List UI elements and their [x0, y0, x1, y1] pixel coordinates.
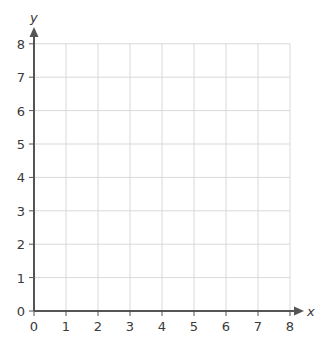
tick-labels: 012345678012345678 [17, 37, 294, 334]
x-tick-label: 2 [94, 319, 102, 334]
y-tick-label: 6 [17, 104, 25, 119]
x-tick-label: 0 [30, 319, 38, 334]
x-tick-label: 1 [62, 319, 70, 334]
grid-lines [34, 44, 290, 311]
x-tick-label: 7 [254, 319, 262, 334]
x-tick-label: 4 [158, 319, 166, 334]
y-tick-label: 3 [17, 204, 25, 219]
x-tick-label: 6 [222, 319, 230, 334]
y-tick-label: 0 [17, 304, 25, 319]
coordinate-grid: 012345678012345678 x y [0, 0, 321, 350]
y-tick-label: 1 [17, 271, 25, 286]
axes [30, 27, 305, 316]
y-axis-label: y [29, 10, 38, 25]
y-tick-label: 2 [17, 237, 25, 252]
ticks [29, 44, 290, 316]
x-tick-label: 3 [126, 319, 134, 334]
x-tick-label: 5 [190, 319, 198, 334]
y-tick-label: 7 [17, 70, 25, 85]
x-tick-label: 8 [286, 319, 294, 334]
y-tick-label: 5 [17, 137, 25, 152]
y-tick-label: 8 [17, 37, 25, 52]
x-axis-arrow-icon [294, 307, 304, 316]
x-axis-label: x [306, 304, 315, 319]
y-axis-arrow-icon [30, 27, 39, 37]
y-tick-label: 4 [17, 170, 25, 185]
